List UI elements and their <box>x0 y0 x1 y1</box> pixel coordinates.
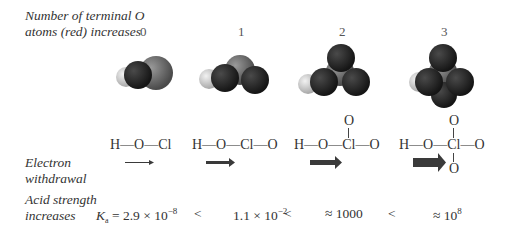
bond-line <box>348 128 349 138</box>
ka-exponent: −8 <box>168 206 178 216</box>
arrow-medium-icon <box>206 158 235 167</box>
molecule-hocl <box>116 56 173 90</box>
withdrawal-arrows <box>0 150 507 180</box>
arrow-thickest-icon <box>413 153 446 172</box>
ka-subscript: a <box>105 216 109 225</box>
formula-hoclo3-top-o: O <box>449 113 459 129</box>
comparator-1: < <box>284 206 292 222</box>
ka-text: ≈ 10 <box>433 208 457 223</box>
label-line: increases <box>25 208 97 224</box>
ka-text: 1.1 × 10 <box>233 208 278 223</box>
formula-hoclo2-top-o: O <box>344 113 354 129</box>
acid-strength-label: Acid strength increases <box>25 192 97 224</box>
arrow-thick-icon <box>310 156 342 169</box>
ka-exponent: 8 <box>457 206 462 216</box>
ka-text: = 2.9 × 10 <box>112 208 168 223</box>
ka-value-0: Ka = 2.9 × 10−8 <box>96 206 177 225</box>
ka-value-3: ≈ 108 <box>433 206 462 224</box>
label-line: Acid strength <box>25 192 97 208</box>
comparator-2: < <box>388 206 396 222</box>
molecule-hoclo <box>199 55 269 94</box>
arrow-thin-icon <box>125 160 154 165</box>
molecule-hoclo3 <box>409 44 474 108</box>
molecule-models <box>0 0 507 120</box>
ka-symbol: K <box>96 208 105 223</box>
ka-value-1: 1.1 × 10−2 <box>233 206 287 224</box>
ka-value-2: ≈ 1000 <box>325 206 363 222</box>
bond-line <box>453 128 454 138</box>
comparator-0: < <box>194 206 202 222</box>
molecule-hoclo2 <box>298 44 370 96</box>
